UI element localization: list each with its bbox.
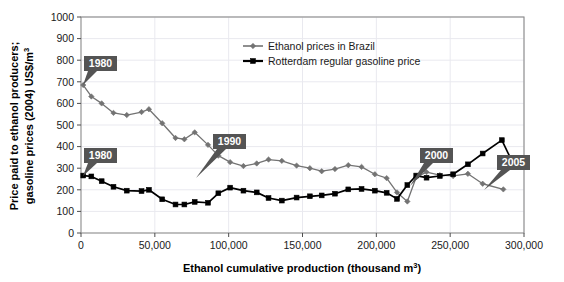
- data-point-square: [173, 202, 178, 207]
- callout-year-label: 2000: [425, 149, 449, 161]
- data-point-square: [424, 175, 429, 180]
- data-point-square: [228, 185, 233, 190]
- y-tick-label: 0: [68, 227, 74, 239]
- data-point-square: [147, 187, 152, 192]
- callout-year-label: 2005: [502, 156, 526, 168]
- data-point-square: [124, 188, 129, 193]
- y-tick-label: 1000: [51, 11, 75, 23]
- data-point-square: [346, 187, 351, 192]
- data-point-square: [254, 190, 259, 195]
- data-point-square: [372, 188, 377, 193]
- data-point-square: [333, 191, 338, 196]
- y-axis-title-line2-main: gasoline prices (2004) US$/m: [23, 52, 35, 204]
- data-point-square: [139, 189, 144, 194]
- data-point-square: [499, 138, 504, 143]
- data-point-square: [192, 199, 197, 204]
- y-axis-title-line2: gasoline prices (2004) US$/m3: [22, 48, 35, 204]
- x-tick-label: 50,000: [139, 239, 171, 251]
- y-axis-title-superscript: 3: [22, 48, 31, 52]
- data-point-square: [182, 202, 187, 207]
- legend-item: Rotterdam regular gasoline price: [243, 55, 420, 67]
- data-point-square: [294, 195, 299, 200]
- learning-curve-chart: 01002003004005006007008009001000 050,000…: [0, 0, 564, 282]
- x-tick-label: 150,000: [284, 239, 322, 251]
- legend-label: Ethanol prices in Brazil: [268, 40, 375, 52]
- x-axis-title-text: Ethanol cumulative production (thousand …: [183, 261, 422, 274]
- data-point-square: [307, 194, 312, 199]
- y-tick-label: 200: [56, 184, 74, 196]
- data-point-square: [241, 188, 246, 193]
- data-point-square: [251, 59, 256, 64]
- y-tick-label: 500: [56, 119, 74, 131]
- data-point-square: [437, 174, 442, 179]
- data-point-square: [160, 197, 165, 202]
- chart-figure: 01002003004005006007008009001000 050,000…: [0, 0, 564, 282]
- callout-year-label: 1980: [89, 57, 113, 69]
- data-point-square: [395, 196, 400, 201]
- data-point-square: [405, 183, 410, 188]
- data-point-square: [89, 174, 94, 179]
- data-point-square: [266, 196, 271, 201]
- data-point-square: [206, 200, 211, 205]
- y-tick-label: 900: [56, 32, 74, 44]
- callout-year-label: 1990: [218, 135, 242, 147]
- x-tick-label: 300,000: [505, 239, 543, 251]
- data-point-square: [384, 190, 389, 195]
- x-tick-label: 0: [78, 239, 84, 251]
- y-tick-label: 300: [56, 162, 74, 174]
- x-axis-title-main: Ethanol cumulative production (thousand …: [183, 262, 414, 274]
- data-point-square: [465, 162, 470, 167]
- data-point-square: [319, 193, 324, 198]
- legend-label: Rotterdam regular gasoline price: [268, 55, 420, 67]
- y-tick-label: 400: [56, 140, 74, 152]
- data-point-square: [216, 191, 221, 196]
- data-point-square: [111, 184, 116, 189]
- x-tick-label: 100,000: [210, 239, 248, 251]
- x-axis-title: Ethanol cumulative production (thousand …: [183, 261, 422, 274]
- data-point-square: [480, 151, 485, 156]
- y-tick-label: 800: [56, 54, 74, 66]
- callout-year-label: 1980: [89, 149, 113, 161]
- y-axis-title-line1: Price paid to ethanol producers;: [8, 42, 20, 211]
- x-tick-label: 250,000: [431, 239, 469, 251]
- data-point-square: [279, 198, 284, 203]
- y-tick-label: 600: [56, 97, 74, 109]
- x-tick-label: 200,000: [357, 239, 395, 251]
- data-point-square: [451, 172, 456, 177]
- y-tick-label: 100: [56, 205, 74, 217]
- data-point-square: [359, 187, 364, 192]
- y-tick-label: 700: [56, 76, 74, 88]
- x-axis-title-close: ): [417, 262, 421, 274]
- data-point-square: [99, 179, 104, 184]
